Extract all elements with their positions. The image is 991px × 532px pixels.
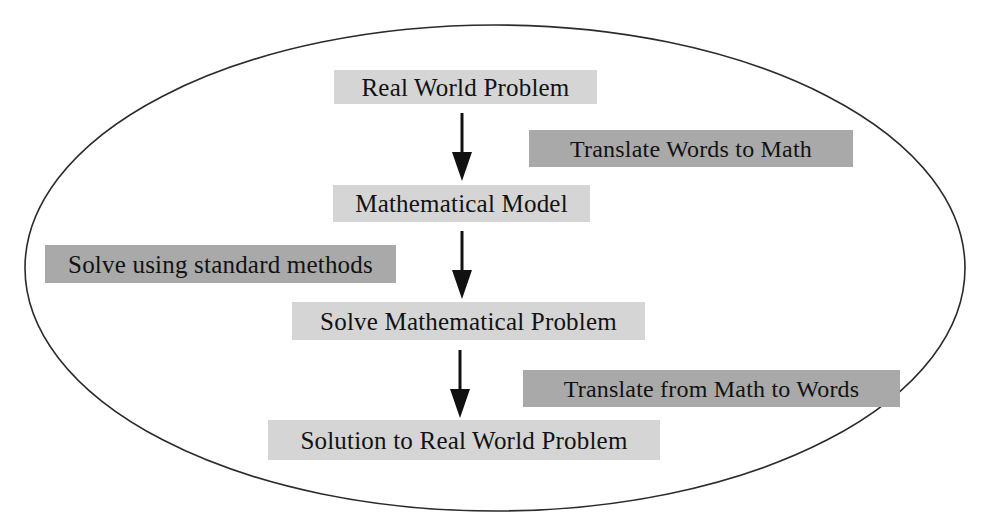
node-label: Real World Problem [359,75,571,100]
node-real-world-problem: Real World Problem [334,70,597,104]
node-translate-from-math-to-words: Translate from Math to Words [523,370,900,407]
node-mathematical-model: Mathematical Model [333,185,590,222]
node-translate-words-to-math: Translate Words to Math [529,130,853,167]
node-solve-using-standard-methods: Solve using standard methods [45,245,396,283]
node-label: Solve Mathematical Problem [318,309,619,334]
node-label: Translate Words to Math [568,137,814,161]
arrow-3-down [450,350,470,418]
node-solution-to-real-world-problem: Solution to Real World Problem [268,420,660,460]
diagram-canvas: Real World Problem Translate Words to Ma… [0,0,991,532]
node-label: Solution to Real World Problem [298,428,629,453]
node-label: Mathematical Model [353,191,570,216]
node-label: Solve using standard methods [66,252,375,277]
arrow-1-down [452,113,472,181]
node-solve-mathematical-problem: Solve Mathematical Problem [292,302,645,340]
arrow-2-down [452,231,472,299]
node-label: Translate from Math to Words [562,377,862,401]
